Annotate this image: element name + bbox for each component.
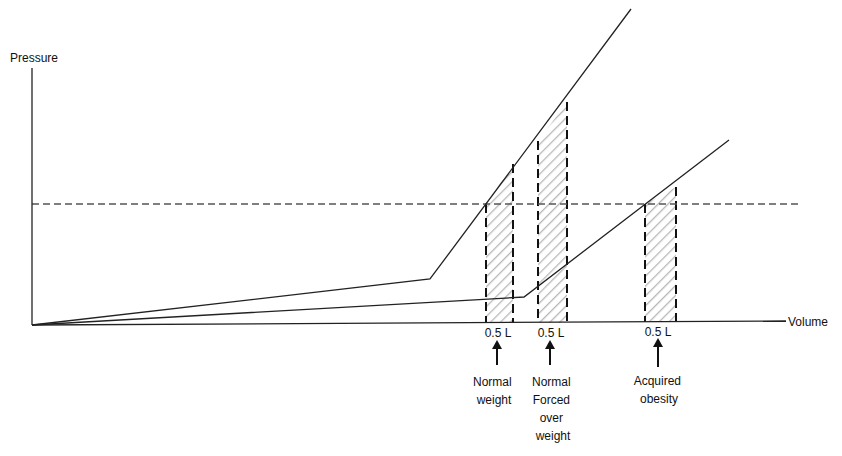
- region-label: Normal weight: [473, 375, 515, 407]
- arrow-up-icon: [492, 340, 502, 365]
- x-axis-label: Volume: [788, 315, 828, 329]
- x-axis: [32, 321, 786, 325]
- region-label: Normal Forced over weight: [532, 375, 574, 443]
- hatched-region-acquired-obesity: [645, 187, 676, 322]
- tick-label: 0.5 L: [645, 325, 672, 339]
- region-label: Acquired obesity: [634, 374, 685, 406]
- hatched-region-forced-over-weight: [538, 102, 567, 323]
- arrow-up-icon: [545, 340, 555, 365]
- tick-label: 0.5 L: [538, 326, 565, 340]
- curve-obesity: [32, 140, 729, 325]
- tick-label: 0.5 L: [485, 326, 512, 340]
- arrow-up-icon: [653, 338, 663, 367]
- y-axis-label: Pressure: [10, 51, 58, 65]
- pressure-volume-diagram: Pressure Volume 0.5 L 0.5 L 0.5 L Normal…: [0, 0, 842, 456]
